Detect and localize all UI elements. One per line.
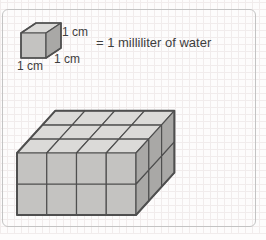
unit-cube-top-edge-label: 1 cm — [62, 26, 88, 39]
unit-cube-bottom-edge-label: 1 cm — [17, 60, 43, 73]
milliliter-equivalence-text: = 1 milliliter of water — [96, 36, 211, 50]
cube-prism-drawing — [17, 111, 174, 215]
unit-cube-depth-edge-label: 1 cm — [54, 53, 80, 66]
